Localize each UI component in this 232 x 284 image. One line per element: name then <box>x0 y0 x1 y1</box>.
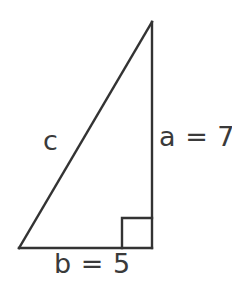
hypotenuse-side-c <box>19 22 152 248</box>
right-triangle-figure: c a = 7 b = 5 <box>0 0 232 284</box>
vertical-leg-label: a = 7 <box>159 123 232 150</box>
right-angle-marker-icon <box>122 218 152 248</box>
hypotenuse-label: c <box>43 127 58 154</box>
horizontal-leg-label: b = 5 <box>54 250 131 277</box>
